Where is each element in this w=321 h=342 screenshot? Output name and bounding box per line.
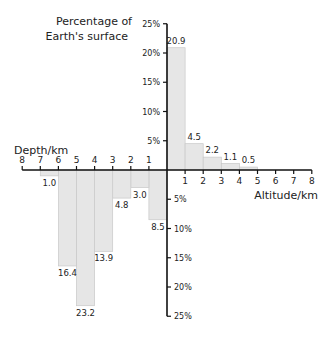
bar-value-label: 2.2 [205,145,219,155]
x-tick-label: 4 [92,155,98,165]
hypsometric-chart: 20.94.52.21.10.58.53.04.813.923.216.41.0… [0,0,321,342]
depth-bar [149,170,167,220]
y-tick-label: 20% [142,49,160,58]
depth-bar [95,170,113,251]
x-tick-label: 1 [146,155,152,165]
x-axis-title-left: Depth/km [14,144,68,157]
bar-value-label: 3.0 [133,190,147,200]
bar-value-label: 16.4 [58,268,77,278]
y-tick-label: 10% [174,225,192,234]
y-tick-label: 15% [174,254,192,263]
bar-value-label: 1.0 [43,178,57,188]
y-tick-label: 25% [142,20,160,29]
bar-value-label: 13.9 [94,253,113,263]
altitude-bar [203,157,221,170]
x-tick-label: 4 [237,176,243,186]
y-tick-label: 10% [142,108,160,117]
y-axis-title: Percentage of [56,15,133,28]
bar-value-label: 23.2 [76,308,95,318]
bar-value-label: 20.9 [167,36,186,46]
x-tick-label: 5 [255,176,261,186]
y-tick-label: 15% [142,78,160,87]
y-tick-label: 5% [147,137,160,146]
y-axis-title: Earth's surface [46,30,129,43]
altitude-bar [221,164,239,170]
x-tick-label: 5 [74,155,80,165]
bar-value-label: 1.1 [224,152,238,162]
y-tick-label: 20% [174,283,192,292]
x-tick-label: 8 [309,176,315,186]
x-tick-label: 7 [291,176,297,186]
depth-bar [58,170,76,266]
depth-bar [113,170,131,198]
x-tick-label: 2 [128,155,134,165]
x-tick-label: 3 [110,155,116,165]
altitude-bar [167,48,185,170]
depth-bar [131,170,149,188]
x-tick-label: 2 [200,176,206,186]
depth-bar [77,170,95,306]
x-tick-label: 3 [218,176,224,186]
altitude-bar [185,144,203,170]
bar-value-label: 4.8 [115,200,129,210]
bar-value-label: 4.5 [187,132,201,142]
y-tick-label: 25% [174,312,192,321]
x-axis-title-right: Altitude/km [254,189,318,202]
bar-value-label: 0.5 [242,155,256,165]
depth-bar [40,170,58,176]
y-tick-label: 5% [174,195,187,204]
bar-value-label: 8.5 [151,222,165,232]
x-tick-label: 1 [182,176,188,186]
x-tick-label: 6 [273,176,279,186]
